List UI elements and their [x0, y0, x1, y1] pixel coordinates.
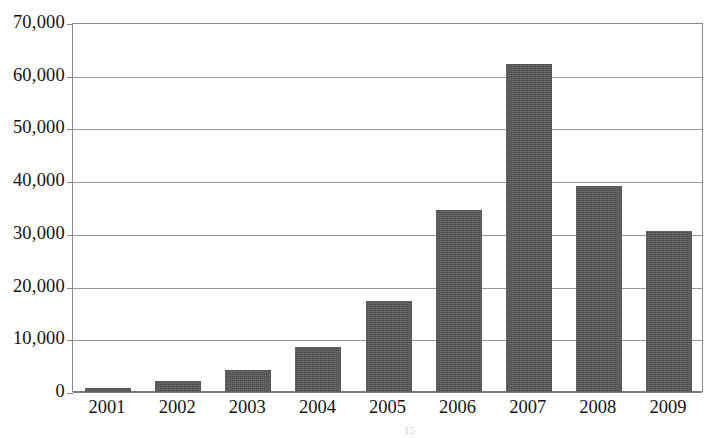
- bar-2002[interactable]: [155, 381, 201, 392]
- x-axis-label-2009: 2009: [633, 396, 703, 419]
- x-axis-label-2008: 2008: [563, 396, 633, 419]
- y-axis-tick-label: 70,000: [0, 13, 65, 32]
- gridline: [73, 129, 702, 130]
- x-axis-label-2005: 2005: [352, 396, 422, 419]
- x-axis-label-2007: 2007: [493, 396, 563, 419]
- y-axis-tick: [67, 235, 73, 236]
- bar-2009[interactable]: [646, 231, 692, 392]
- x-axis-label-2006: 2006: [423, 396, 493, 419]
- y-axis-tick: [67, 182, 73, 183]
- y-axis-tick-label: 20,000: [0, 277, 65, 296]
- bar-chart: 010,00020,00030,00040,00050,00060,00070,…: [0, 0, 709, 438]
- y-axis-tick: [67, 77, 73, 78]
- y-axis-tick-label: 30,000: [0, 224, 65, 243]
- y-axis-tick-label: 60,000: [0, 66, 65, 85]
- y-axis-tick: [67, 129, 73, 130]
- x-axis-label-2004: 2004: [282, 396, 352, 419]
- y-axis-tick: [67, 288, 73, 289]
- x-axis-label-2001: 2001: [72, 396, 142, 419]
- bar-2004[interactable]: [295, 347, 341, 392]
- bar-2008[interactable]: [576, 186, 622, 392]
- x-axis-label-2002: 2002: [142, 396, 212, 419]
- y-axis-tick: [67, 340, 73, 341]
- gridline: [73, 77, 702, 78]
- plot-area: [72, 23, 703, 392]
- x-axis-labels: 200120022003200420052006200720082009: [72, 396, 703, 426]
- gridline: [73, 182, 702, 183]
- y-axis-tick: [67, 24, 73, 25]
- bar-2003[interactable]: [225, 370, 271, 392]
- y-axis-tick-label: 50,000: [0, 118, 65, 137]
- y-axis-tick-label: 10,000: [0, 329, 65, 348]
- bar-2006[interactable]: [436, 210, 482, 392]
- x-axis-label-2003: 2003: [212, 396, 282, 419]
- y-axis-tick-label: 40,000: [0, 171, 65, 190]
- bar-2005[interactable]: [366, 301, 412, 392]
- page-footnote: 15: [404, 424, 524, 437]
- y-axis-tick: [67, 393, 73, 394]
- bar-2001[interactable]: [85, 388, 131, 392]
- bar-2007[interactable]: [506, 64, 552, 392]
- y-axis-tick-label: 0: [0, 382, 65, 401]
